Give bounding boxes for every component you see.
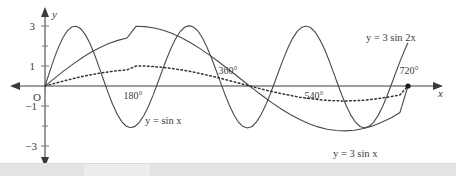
y-tick-label-3: 3 xyxy=(30,20,36,32)
x-tick-label-540: 540° xyxy=(305,90,324,101)
y-tick-label-1: 1 xyxy=(30,60,36,72)
y-tick-label-minus-3: −3 xyxy=(25,140,37,152)
footer-segment-right xyxy=(150,164,456,176)
curve-label-sin-x: y = sin x xyxy=(145,115,182,126)
origin-label: O xyxy=(33,91,41,103)
curve-label-three-sin-x: y = 3 sin x xyxy=(333,148,378,159)
sine-curves-figure: 3 1 −1 −3 y x O 180° 360° 540° 720° y = … xyxy=(0,0,456,176)
curve-three-sin-x xyxy=(45,26,408,131)
x-axis-arrow-left xyxy=(10,82,20,90)
x-tick-label-180: 180° xyxy=(124,90,143,101)
y-axis-label: y xyxy=(51,8,57,20)
x-axis-label: x xyxy=(437,87,443,99)
footer-strip xyxy=(0,163,456,176)
footer-segment-left xyxy=(0,164,84,176)
axes-group xyxy=(10,7,443,167)
y-axis-arrow-up xyxy=(41,7,49,17)
curve-label-three-sin-2x: y = 3 sin 2x xyxy=(366,32,416,43)
x-tick-label-360: 360° xyxy=(219,65,238,76)
curve-three-sin-2x xyxy=(45,26,408,128)
x-tick-label-720: 720° xyxy=(400,65,419,76)
endpoint-marker-720 xyxy=(405,83,410,88)
plot-canvas: 3 1 −1 −3 y x O 180° 360° 540° 720° y = … xyxy=(0,0,456,176)
